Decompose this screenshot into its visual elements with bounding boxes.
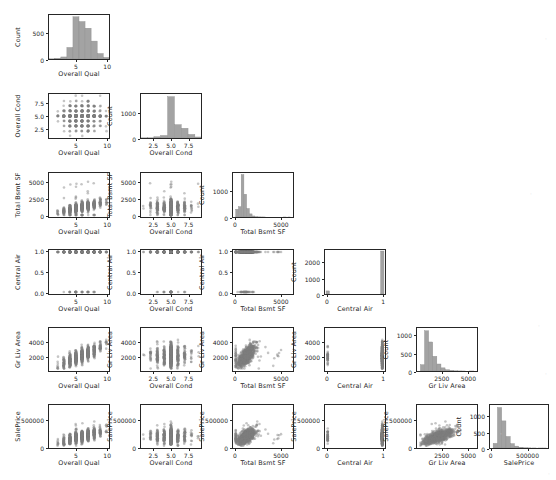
x-ticklabel: 2.5 (149, 142, 159, 149)
y-tickmark (138, 182, 140, 183)
y-tickmark (138, 113, 140, 114)
y-tickmark (138, 139, 140, 140)
scatter-axes-sale_price-vs-central_air (324, 404, 386, 449)
y-tickmark (487, 449, 489, 450)
scan-artifact-mark: · (548, 470, 550, 477)
count-axis-label: Count (14, 14, 22, 60)
scatter-axes-overall_cond-vs-overall_qual (48, 93, 110, 139)
histogram-axes-overall_qual (48, 14, 110, 60)
y-tickmark (138, 448, 140, 449)
scatter-axes-gr_liv_area-vs-overall_qual (48, 327, 110, 372)
x-ticklabel: 2.5 (149, 375, 159, 382)
y-tickmark (230, 342, 232, 343)
y-tickmark (46, 293, 48, 294)
x-ticklabel: 7.5 (184, 452, 194, 459)
y-tickmark (46, 420, 48, 421)
x-ticklabel: 1 (381, 452, 385, 459)
x-axis-label-central_air: Central Air (324, 382, 386, 390)
histogram-axes-sale_price (489, 404, 549, 449)
scatter-axes-total_bsmt_sf-vs-overall_qual (48, 172, 110, 218)
y-tickmark (322, 262, 324, 263)
scan-artifact-mark: · (530, 190, 532, 197)
y-axis-label-sale_price: SalePrice (106, 404, 114, 449)
y-tickmark (46, 448, 48, 449)
x-ticklabel: 2.5 (149, 452, 159, 459)
y-axis-label-gr_liv_area: Gr Liv Area (106, 327, 114, 372)
x-ticklabel: 5000 (273, 221, 288, 228)
y-tickmark (487, 416, 489, 417)
y-axis-label-sale_price: SalePrice (198, 404, 206, 449)
y-axis-label-sale_price: SalePrice (382, 404, 390, 449)
y-tickmark (46, 342, 48, 343)
x-ticklabel: 5000 (461, 452, 476, 459)
x-ticklabel: 5000 (273, 375, 288, 382)
x-axis-label-overall_qual: Overall Qual (48, 228, 110, 236)
x-ticklabel: 7.5 (184, 375, 194, 382)
x-ticklabel: 0 (233, 221, 237, 228)
scatter-axes-central_air-vs-overall_cond (140, 249, 202, 295)
x-ticklabel: 0 (325, 375, 329, 382)
x-ticklabel: 7.5 (184, 142, 194, 149)
x-ticklabel: 5000 (273, 452, 288, 459)
y-tickmark (322, 279, 324, 280)
x-axis-label-overall_qual: Overall Qual (48, 459, 110, 467)
x-axis-label-sale_price: SalePrice (489, 459, 549, 467)
y-tickmark (230, 251, 232, 252)
y-tickmark (138, 420, 140, 421)
x-ticklabel: 10 (103, 221, 111, 228)
y-tickmark (138, 199, 140, 200)
y-tickmark (230, 293, 232, 294)
scatter-axes-central_air-vs-overall_qual (48, 249, 110, 295)
x-axis-label-overall_cond: Overall Cond (140, 382, 202, 390)
x-ticklabel: 5.0 (166, 452, 176, 459)
x-axis-label-overall_cond: Overall Cond (140, 149, 202, 157)
y-tickmark (46, 33, 48, 34)
x-ticklabel: 0 (233, 375, 237, 382)
x-ticklabel: 2500 (434, 375, 449, 382)
x-axis-label-overall_qual: Overall Qual (48, 382, 110, 390)
x-ticklabel: 0 (233, 452, 237, 459)
y-tickmark (414, 354, 416, 355)
y-tickmark (46, 103, 48, 104)
count-axis-label: Count (382, 327, 390, 372)
histogram-axes-total_bsmt_sf (232, 172, 294, 218)
x-axis-label-total_bsmt_sf: Total Bsmt SF (232, 305, 294, 313)
y-tickmark (138, 357, 140, 358)
x-axis-label-overall_qual: Overall Qual (48, 70, 110, 78)
x-axis-label-central_air: Central Air (324, 459, 386, 467)
x-ticklabel: 5 (74, 142, 78, 149)
scatter-axes-central_air-vs-total_bsmt_sf (232, 249, 294, 295)
y-tickmark (230, 191, 232, 192)
x-ticklabel: 10 (103, 375, 111, 382)
y-tickmark (46, 60, 48, 61)
x-ticklabel: 2.5 (149, 221, 159, 228)
y-tickmark (46, 116, 48, 117)
y-tickmark (138, 342, 140, 343)
x-ticklabel: 7.5 (184, 221, 194, 228)
y-tickmark (138, 293, 140, 294)
y-tickmark (487, 433, 489, 434)
y-tickmark (46, 216, 48, 217)
x-axis-label-gr_liv_area: Gr Liv Area (416, 459, 478, 467)
y-tickmark (230, 448, 232, 449)
x-axis-label-overall_qual: Overall Qual (48, 305, 110, 313)
y-axis-label-central_air: Central Air (198, 249, 206, 295)
x-ticklabel: 5.0 (166, 221, 176, 228)
x-ticklabel: 2.5 (149, 298, 159, 305)
histogram-axes-overall_cond (140, 93, 202, 139)
y-tickmark (138, 272, 140, 273)
y-tickmark (46, 199, 48, 200)
scatter-axes-gr_liv_area-vs-total_bsmt_sf (232, 327, 294, 372)
y-tickmark (414, 448, 416, 449)
x-ticklabel: 1 (381, 375, 385, 382)
count-axis-label: Count (106, 93, 114, 139)
y-axis-label-central_air: Central Air (14, 249, 22, 295)
histogram-axes-gr_liv_area (416, 327, 478, 372)
scan-artifact-mark: · (500, 430, 502, 437)
x-ticklabel: 5 (74, 63, 78, 70)
y-axis-label-gr_liv_area: Gr Liv Area (198, 327, 206, 372)
x-axis-label-total_bsmt_sf: Total Bsmt SF (232, 228, 294, 236)
count-axis-label: Count (290, 249, 298, 295)
y-tickmark (46, 182, 48, 183)
y-tickmark (46, 357, 48, 358)
